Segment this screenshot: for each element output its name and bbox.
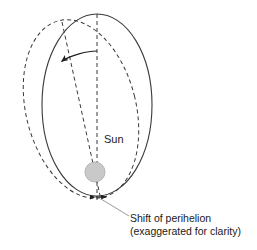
sun-marker bbox=[85, 162, 105, 182]
caption-line-2: (exaggerated for clarity) bbox=[130, 225, 241, 237]
perihelion-shift-figure: Sun Shift of perihelion (exaggerated for… bbox=[0, 0, 257, 250]
orbit-diagram-svg: Sun Shift of perihelion (exaggerated for… bbox=[0, 0, 257, 250]
caption-line-1: Shift of perihelion bbox=[130, 212, 211, 224]
sun-label: Sun bbox=[104, 133, 124, 145]
rotation-arrow bbox=[62, 51, 98, 62]
caption-leader-line bbox=[101, 199, 129, 216]
